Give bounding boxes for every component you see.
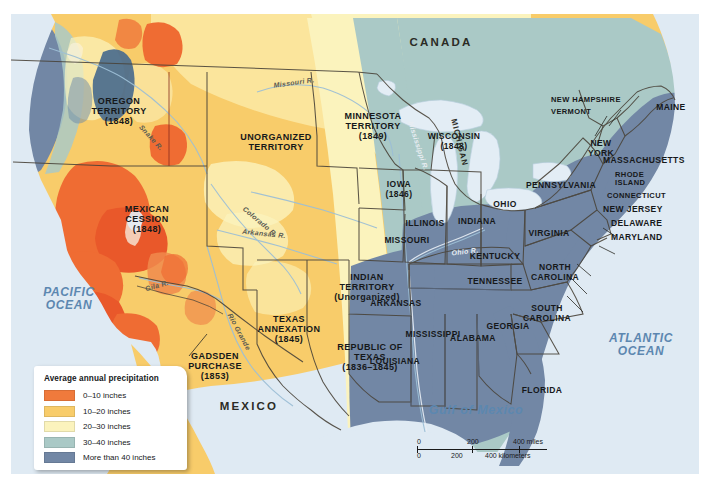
scale-miles-tick-0: 0 — [417, 438, 421, 445]
legend-swatch-20-30 — [44, 421, 75, 432]
legend-item: 10–20 inches — [44, 404, 178, 420]
map-canvas: CANADA MEXICO PACIFIC OCEAN ATLANTIC OCE… — [11, 14, 699, 474]
scale-bar: 0 200 400 miles 0 200 400 kilometers — [417, 438, 567, 461]
precipitation-map: CANADA MEXICO PACIFIC OCEAN ATLANTIC OCE… — [0, 0, 710, 487]
legend-item: 0–10 inches — [44, 388, 178, 404]
legend-label-0-10: 0–10 inches — [83, 391, 126, 400]
legend-label-10-20: 10–20 inches — [83, 407, 131, 416]
legend-swatch-10-20 — [44, 406, 75, 417]
legend: Average annual precipitation 0–10 inches… — [34, 366, 187, 470]
legend-label-40-plus: More than 40 inches — [83, 453, 156, 462]
legend-swatch-30-40 — [44, 437, 75, 448]
scale-km-tick-400: 400 kilometers — [485, 452, 531, 459]
scale-miles-tick-400: 400 miles — [513, 438, 543, 445]
legend-label-30-40: 30–40 inches — [83, 438, 131, 447]
scale-km-tick-200: 200 — [451, 452, 463, 459]
legend-swatch-40-plus — [44, 452, 75, 463]
legend-item: More than 40 inches — [44, 450, 178, 466]
legend-title: Average annual precipitation — [44, 374, 178, 383]
scale-km-tick-0: 0 — [417, 452, 421, 459]
legend-item: 20–30 inches — [44, 419, 178, 435]
scale-rule — [417, 449, 547, 450]
legend-swatch-0-10 — [44, 390, 75, 401]
legend-label-20-30: 20–30 inches — [83, 422, 131, 431]
legend-item: 30–40 inches — [44, 435, 178, 451]
scale-miles-numbers: 0 200 400 miles — [417, 438, 567, 447]
scale-km-numbers: 0 200 400 kilometers — [417, 452, 567, 461]
scale-miles-tick-200: 200 — [467, 438, 479, 445]
